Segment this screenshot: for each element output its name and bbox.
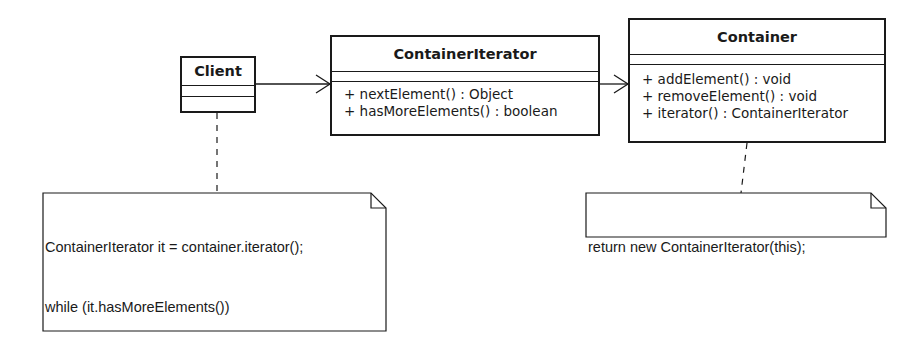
class-container[interactable]: Container + addElement() : void + remove…: [628, 18, 886, 143]
attributes-compartment: [332, 71, 598, 81]
association-iterator-to-container: [600, 75, 628, 93]
attributes-compartment: [182, 85, 254, 96]
class-name: ContainerIterator: [332, 37, 598, 71]
class-name: Container: [630, 20, 884, 54]
operations-compartment: + addElement() : void + removeElement() …: [630, 64, 884, 126]
attributes-compartment: [630, 54, 884, 64]
note-container-code: return new ContainerIterator(this);: [586, 193, 886, 237]
class-container-iterator[interactable]: ContainerIterator + nextElement() : Obje…: [330, 35, 600, 136]
association-client-to-iterator: [255, 75, 330, 93]
operations-compartment: [182, 96, 254, 110]
class-client[interactable]: Client: [180, 56, 256, 113]
operation: + addElement() : void: [642, 71, 884, 88]
code-line: return new ContainerIterator(this);: [588, 237, 806, 257]
operation: + nextElement() : Object: [344, 86, 598, 103]
operation: + removeElement() : void: [642, 88, 884, 105]
note-client-code: ContainerIterator it = container.iterato…: [43, 193, 386, 331]
class-name: Client: [182, 58, 254, 85]
operation: + hasMoreElements() : boolean: [344, 103, 598, 120]
operations-compartment: + nextElement() : Object + hasMoreElemen…: [332, 81, 598, 124]
note-anchor-container: [741, 143, 747, 193]
code-line: while (it.hasMoreElements()): [45, 297, 303, 317]
code-line: ContainerIterator it = container.iterato…: [45, 237, 303, 257]
operation: + iterator() : ContainerIterator: [642, 105, 884, 122]
